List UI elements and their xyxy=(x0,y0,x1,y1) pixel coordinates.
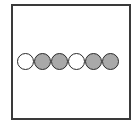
bead-empty-circle xyxy=(68,53,85,70)
bead-row xyxy=(17,53,119,70)
bead-filled-circle xyxy=(85,53,102,70)
bead-empty-circle xyxy=(17,53,34,70)
bead-filled-circle xyxy=(34,53,51,70)
bead-filled-circle xyxy=(102,53,119,70)
bead-filled-circle xyxy=(51,53,68,70)
